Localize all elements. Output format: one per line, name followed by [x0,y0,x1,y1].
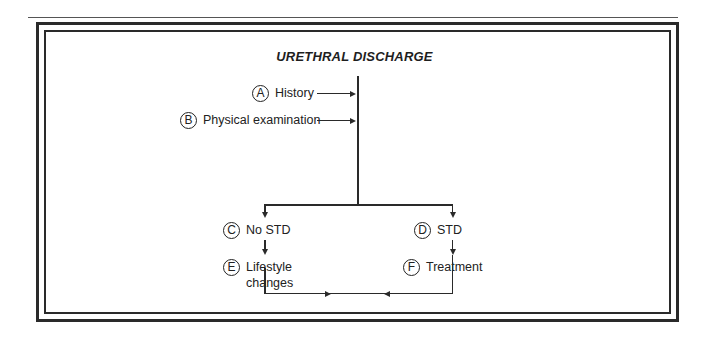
lifestyle-line2: changes [246,276,293,290]
badge-f: F [403,259,420,276]
split-line [264,204,453,206]
history-arrow-line [317,93,351,94]
merge-arrow-right-icon [325,291,331,297]
lifestyle-changes-label: Lifestyle changes [246,259,293,291]
no-std-label: No STD [246,222,290,238]
lifestyle-line1: Lifestyle [246,260,292,274]
merge-arrow-left-icon [384,291,390,297]
badge-c: C [223,222,240,239]
node-c-no-std: C No STD [223,222,290,239]
badge-d: D [414,222,431,239]
c-to-e-arrow-icon [262,249,268,255]
exam-arrow-icon [350,118,356,124]
trunk-line [357,76,359,205]
diagram-title: URETHRAL DISCHARGE [0,49,709,64]
right-drop-arrow-icon [450,212,456,218]
exam-arrow-line [317,120,351,121]
f-down-line [452,255,454,294]
treatment-label: Treatment [426,259,483,275]
std-label: STD [437,222,462,238]
badge-a: A [252,85,269,102]
merge-line [264,293,453,294]
node-d-std: D STD [414,222,462,239]
node-f-treatment: F Treatment [403,259,483,276]
physical-exam-label: Physical examination [203,112,320,128]
node-b-physical-exam: B Physical examination [180,112,320,129]
node-a-history: A History [252,85,314,102]
node-e-lifestyle-changes: E Lifestyle changes [223,259,293,291]
top-rule [28,17,678,18]
history-arrow-icon [350,91,356,97]
history-label: History [275,85,314,101]
e-down-line [264,268,266,294]
badge-b: B [180,112,197,129]
badge-e: E [223,259,240,276]
left-drop-arrow-icon [262,212,268,218]
